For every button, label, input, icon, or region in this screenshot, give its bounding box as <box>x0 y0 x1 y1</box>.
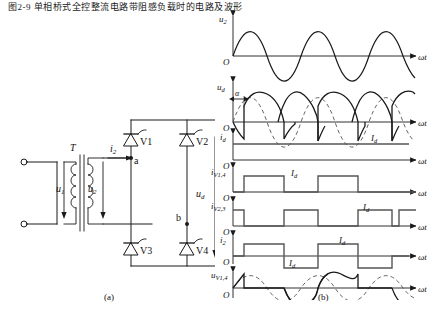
panel-iV23 <box>233 202 416 226</box>
subfigure-a-caption: (a) <box>104 292 114 302</box>
origin-iV14: O <box>223 193 230 203</box>
label-id: id <box>220 132 227 143</box>
dc-voltage-label: ud <box>196 188 205 201</box>
origin-uV14: O <box>223 290 230 300</box>
firing-angle-label: α <box>235 89 240 98</box>
xlabel-i2: ωt <box>418 252 427 262</box>
Id-label-ud: Id <box>370 133 378 144</box>
xlabel-id: ωt <box>418 156 427 166</box>
secondary-current-label: i2 <box>110 143 117 156</box>
node-a-dot <box>129 156 133 160</box>
xlabel-uV14: ωt <box>418 284 427 294</box>
transformer-label: T <box>70 142 77 153</box>
xlabel-iV14: ωt <box>418 188 427 198</box>
uV14-dip-2 <box>392 288 414 300</box>
input-terminal-top <box>21 159 27 165</box>
ud-segment-3 <box>318 92 365 141</box>
iV14-waveform <box>233 176 416 192</box>
figure-container: 图2-9 单相桥式全控整流电路带阻感负载时的电路及波形 <box>0 0 443 315</box>
subfigure-b-caption: (b) <box>318 292 329 302</box>
thyristor-V4-label: V4 <box>196 245 208 256</box>
waveform-diagram: u2 ud id iV1,4 iV2,3 i2 uV1,4 O O O O O … <box>211 10 443 300</box>
iV23-waveform <box>233 210 416 226</box>
panel-i2 <box>233 236 416 268</box>
Id-label-i2-pos: Id <box>338 235 346 246</box>
secondary-voltage-arrow <box>100 162 105 219</box>
node-b-label: b <box>176 212 181 223</box>
xlabel-u2: ωt <box>418 52 427 62</box>
origin-iV23: O <box>223 227 230 237</box>
circuit-diagram: T u1 u2 i2 a b V1 V2 V3 V4 id ud Ld Rd <box>0 12 215 302</box>
uV14-segment-1 <box>233 274 328 300</box>
origin-i2: O <box>223 257 230 267</box>
panel-u2 <box>233 16 416 81</box>
Id-label-i2-neg: Id <box>288 258 296 269</box>
label-u2: u2 <box>219 14 228 25</box>
origin-u2: O <box>223 57 230 67</box>
node-a-label: a <box>134 155 139 166</box>
panel-ud <box>233 82 416 147</box>
panel-iV14 <box>233 168 416 192</box>
xlabel-ud: ωt <box>418 118 427 128</box>
thyristor-V1-label: V1 <box>140 136 152 147</box>
node-b-dot <box>185 222 189 226</box>
Id-label-iV23: Id <box>362 202 370 213</box>
input-terminal-bottom <box>21 221 27 227</box>
panel-id <box>233 134 416 160</box>
label-ud: ud <box>217 82 226 93</box>
label-uV14: uV1,4 <box>211 270 228 281</box>
uV14-dip-1 <box>284 288 318 300</box>
thyristor-V3-label: V3 <box>140 245 152 256</box>
secondary-voltage-label: u2 <box>88 183 97 196</box>
thyristor-V2-label: V2 <box>196 136 208 147</box>
origin-ud: O <box>223 123 230 133</box>
xlabel-iV23: ωt <box>418 222 427 232</box>
transformer-primary-coil <box>64 162 76 224</box>
Id-label-iV14: Id <box>290 168 298 179</box>
origin-id: O <box>223 161 230 171</box>
